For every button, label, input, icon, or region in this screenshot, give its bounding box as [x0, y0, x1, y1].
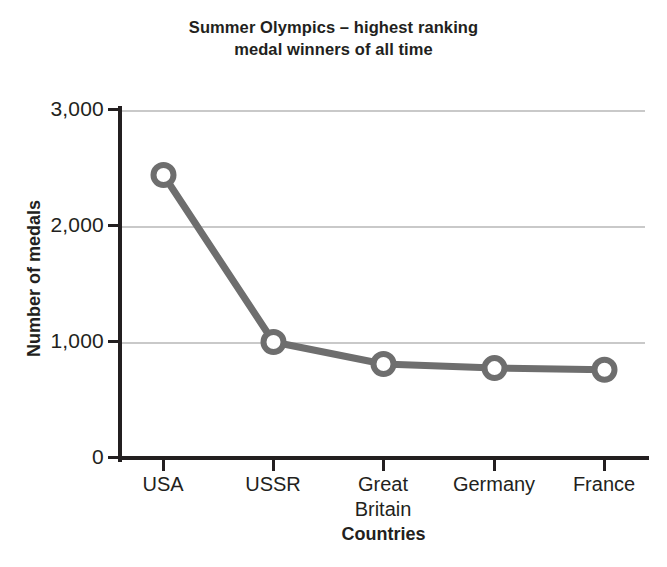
- y-tick-3000: [108, 108, 119, 111]
- y-tick-2000: [108, 224, 119, 227]
- x-tick-france: [603, 460, 606, 471]
- gridline-2000: [122, 226, 645, 228]
- x-tick-ussr: [272, 460, 275, 471]
- x-tick-usa: [162, 460, 165, 471]
- x-tick-label-france-line-1: France: [535, 472, 667, 497]
- x-axis-title: Countries: [122, 524, 645, 545]
- plot-area: [122, 110, 645, 458]
- y-tick-label-2000: 2,000: [4, 213, 104, 237]
- line-chart: Summer Olympics – highest ranking medal …: [0, 0, 667, 567]
- y-tick-label-1000: 1,000: [4, 329, 104, 353]
- gridline-1000: [122, 342, 645, 344]
- x-tick-germany: [493, 460, 496, 471]
- y-tick-1000: [108, 340, 119, 343]
- y-axis-title: Number of medals: [24, 169, 45, 389]
- x-tick-label-great-britain-line-2: Britain: [314, 497, 452, 522]
- y-tick-label-3000: 3,000: [4, 97, 104, 121]
- gridline-3000: [122, 110, 645, 112]
- x-tick-label-france: France: [535, 472, 667, 497]
- x-tick-great-britain: [382, 460, 385, 471]
- y-tick-label-0: 0: [4, 445, 104, 469]
- y-tick-0: [108, 456, 119, 459]
- y-axis-tick-labels: 3,000 2,000 1,000 0: [0, 0, 104, 567]
- y-axis-line: [118, 106, 122, 462]
